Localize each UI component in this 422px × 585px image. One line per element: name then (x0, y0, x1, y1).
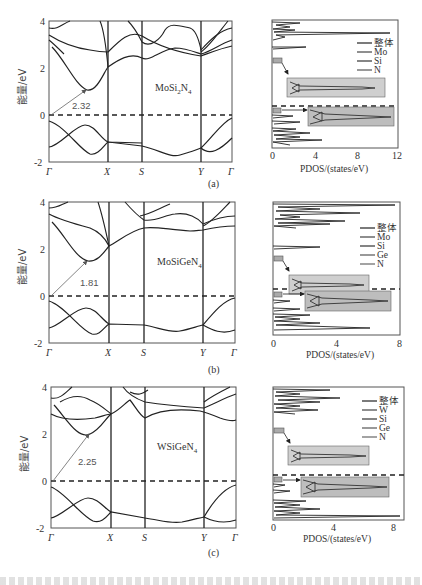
x-tick: 0 (271, 522, 276, 533)
pdos-a: 整体 Mo Si N 0 4 8 12 PDOS/(states/eV) (270, 20, 402, 175)
x-tick: Γ (45, 347, 52, 358)
x-tick: Γ (227, 166, 234, 177)
y-tick: 4 (40, 16, 45, 27)
x-tick: 0 (271, 338, 276, 349)
band-gap-label-b: 1.81 (80, 277, 99, 288)
band-structure-a: 2.32 MoSi2N4 4 2 0 -2 能量/eV Γ X S Y Γ (a… (16, 16, 234, 190)
x-tick: Γ (231, 532, 238, 543)
svg-text:N: N (374, 65, 381, 75)
y-tick: -2 (36, 523, 44, 534)
x-tick: Γ (47, 532, 54, 543)
pdos-c: 整体 W Si Ge N 0 4 8 PDOS/(states/eV) (271, 387, 404, 545)
x-tick: 12 (392, 150, 402, 161)
band-structure-c: 2.25 WSiGeN4 4 2 0 -2 能量/eV Γ X S Y Γ (c… (18, 382, 238, 559)
x-axis-label-pdos-c: PDOS/(states/eV) (303, 534, 371, 545)
x-tick: Γ (230, 347, 237, 358)
x-tick: 4 (331, 522, 336, 533)
legend-a: 整体 Mo Si N (357, 37, 394, 75)
x-tick: 8 (391, 522, 396, 533)
x-tick: Γ (45, 166, 52, 177)
y-tick: -2 (34, 338, 42, 349)
x-tick: Y (200, 347, 207, 358)
cropped-caption (0, 577, 422, 585)
y-tick: 2 (40, 244, 45, 255)
y-tick: 0 (40, 110, 45, 121)
x-tick: 8 (397, 338, 402, 349)
y-axis-label-c: 能量/eV (18, 435, 30, 472)
y-axis-label-b: 能量/eV (16, 248, 28, 285)
x-tick: X (106, 532, 114, 543)
x-tick: 8 (355, 150, 360, 161)
y-tick: 2 (42, 429, 47, 440)
x-tick: Y (198, 166, 205, 177)
x-tick: S (142, 532, 147, 543)
x-tick: Y (201, 532, 208, 543)
band-gap-label-a: 2.32 (72, 100, 91, 111)
x-tick: S (141, 347, 146, 358)
panel-label-a: (a) (208, 178, 219, 190)
legend-b: 整体 Mo Si Ge N (360, 222, 397, 269)
y-tick: 2 (40, 63, 45, 74)
x-axis-label-pdos-b: PDOS/(states/eV) (306, 350, 374, 361)
legend-c: 整体 W Si Ge N (362, 395, 399, 442)
band-structure-b: 1.81 MoSiGeN4 4 2 0 -2 能量/eV Γ X S Y Γ (… (16, 197, 237, 376)
x-tick: S (139, 166, 144, 177)
y-tick: -2 (34, 157, 42, 168)
svg-text:N: N (379, 432, 386, 442)
pdos-b: 整体 Mo Si Ge N 0 4 8 PDOS/(states/eV) (271, 202, 402, 361)
material-label-a: MoSi2N4 (155, 82, 192, 96)
material-label-c: WSiGeN4 (157, 441, 198, 455)
figure-canvas: 2.32 MoSi2N4 4 2 0 -2 能量/eV Γ X S Y Γ (a… (0, 0, 422, 585)
material-label-b: MoSiGeN4 (157, 256, 202, 270)
y-axis-label-a: 能量/eV (16, 68, 28, 105)
x-tick: 0 (270, 150, 275, 161)
band-gap-label-c: 2.25 (78, 456, 97, 467)
panel-label-c: (c) (208, 547, 219, 559)
y-tick: 4 (40, 197, 45, 208)
x-axis-label-pdos-a: PDOS/(states/eV) (300, 164, 368, 175)
y-tick: 0 (42, 476, 47, 487)
x-tick: X (103, 166, 111, 177)
x-tick: X (104, 347, 112, 358)
x-tick: 4 (313, 150, 318, 161)
y-tick: 4 (42, 382, 47, 393)
x-tick: 4 (334, 338, 339, 349)
y-tick: 0 (40, 291, 45, 302)
svg-text:N: N (377, 259, 384, 269)
panel-label-b: (b) (208, 364, 220, 376)
